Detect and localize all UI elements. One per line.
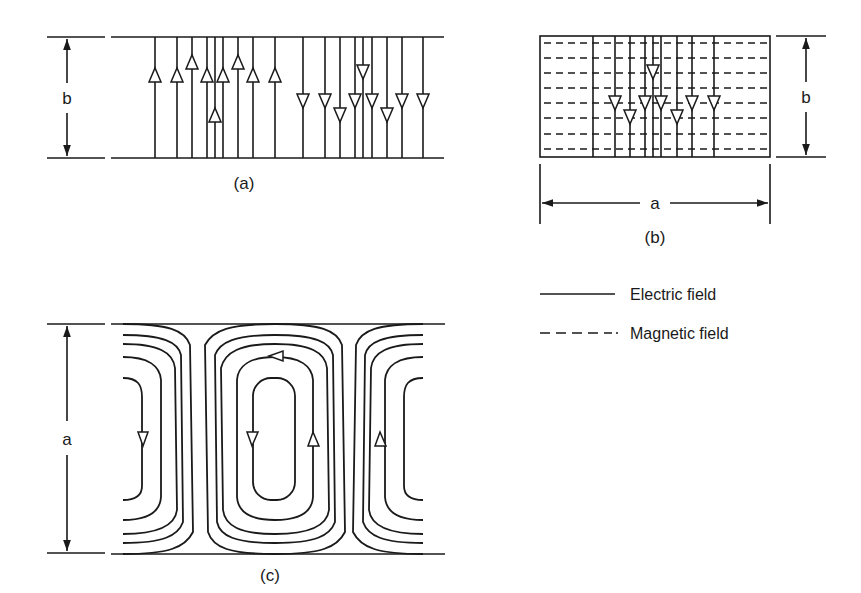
- electric-field-lines-a: [149, 37, 429, 158]
- arrow-down-icon: [686, 96, 698, 110]
- arrow-up-icon: [171, 68, 183, 82]
- arrow-up-icon: [149, 68, 161, 82]
- legend: Electric field Magnetic field: [540, 286, 729, 342]
- arrow-down-icon: [624, 110, 636, 124]
- arrow-down-icon: [647, 65, 659, 79]
- arrow-down-icon: [366, 94, 378, 108]
- dimension-b-label: b: [62, 89, 71, 108]
- arrow-down-icon: [247, 432, 258, 446]
- arrow-down-icon: [297, 94, 309, 108]
- panel-c: a: [47, 324, 445, 585]
- dimension-a-label-c: a: [62, 430, 72, 449]
- arrow-down-icon: [334, 108, 346, 122]
- dimension-a-label-b: a: [650, 194, 660, 213]
- caption-a: (a): [234, 174, 255, 193]
- arrow-down-icon: [417, 94, 429, 108]
- panel-b: b a (b): [540, 36, 826, 247]
- arrow-down-icon: [138, 432, 148, 446]
- arrow-down-icon: [396, 94, 408, 108]
- electric-field-lines-b: [593, 36, 720, 157]
- arrow-left-icon: [269, 351, 283, 361]
- arrow-up-icon: [308, 432, 319, 446]
- panel-a: b (a): [47, 37, 444, 193]
- arrow-up-icon: [269, 68, 281, 82]
- arrow-down-icon: [357, 65, 369, 79]
- arrow-down-icon: [671, 110, 683, 124]
- caption-c: (c): [260, 566, 280, 585]
- caption-b: (b): [645, 228, 666, 247]
- legend-electric-label: Electric field: [630, 286, 716, 303]
- arrow-up-icon: [247, 68, 259, 82]
- arrow-up-icon: [186, 55, 198, 69]
- arrow-up-icon: [209, 108, 221, 122]
- arrow-up-icon: [217, 68, 229, 82]
- arrow-down-icon: [381, 108, 393, 122]
- arrow-up-icon: [232, 55, 244, 69]
- legend-magnetic-label: Magnetic field: [630, 325, 729, 342]
- waveguide-field-diagram: b (a) b a (b) Electric field Magnetic fi…: [0, 0, 861, 593]
- arrow-down-icon: [319, 94, 331, 108]
- arrow-down-icon: [349, 94, 361, 108]
- arrow-up-icon: [201, 68, 213, 82]
- dimension-b-label-right: b: [801, 88, 810, 107]
